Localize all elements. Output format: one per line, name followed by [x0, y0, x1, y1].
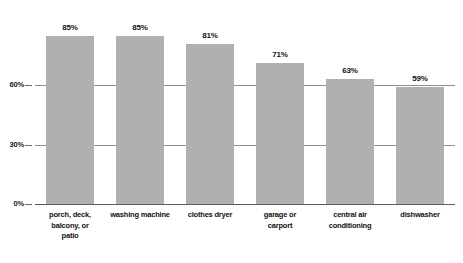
- x-axis-label-line: dishwasher: [380, 210, 460, 221]
- bar: [326, 79, 374, 204]
- bar: [116, 36, 164, 204]
- bar: [256, 63, 304, 204]
- bar-group: 81%: [186, 14, 234, 204]
- x-axis-label-line: patio: [30, 231, 110, 242]
- bar-value-label: 63%: [314, 67, 386, 75]
- x-axis-label: dishwasher: [380, 210, 460, 221]
- y-axis-tick-label-60: 60%: [0, 81, 24, 89]
- bar-group: 63%: [326, 14, 374, 204]
- x-axis-label-line: conditioning: [310, 221, 390, 232]
- bar-value-label: 85%: [34, 24, 106, 32]
- bar-chart: 0% 30% 60% 85%85%81%71%63%59% porch, dec…: [0, 0, 463, 263]
- tick-mark-30: [25, 145, 32, 146]
- bar-group: 71%: [256, 14, 304, 204]
- tick-mark-0: [25, 204, 32, 205]
- x-axis-label-line: porch, deck,: [30, 210, 110, 221]
- bar-value-label: 71%: [244, 51, 316, 59]
- bar-group: 85%: [46, 14, 94, 204]
- x-axis-label-line: clothes dryer: [170, 210, 250, 221]
- x-axis-label-line: carport: [240, 221, 320, 232]
- x-axis-label: porch, deck,balcony, orpatio: [30, 210, 110, 242]
- x-axis-label-line: garage or: [240, 210, 320, 221]
- y-axis: 0% 30% 60%: [0, 14, 24, 204]
- y-axis-tick-label-0: 0%: [0, 200, 24, 208]
- axis-baseline: [35, 204, 455, 205]
- x-axis-label-line: balcony, or: [30, 221, 110, 232]
- x-axis-label: central airconditioning: [310, 210, 390, 231]
- x-axis-label: clothes dryer: [170, 210, 250, 221]
- x-axis-label-line: washing machine: [100, 210, 180, 221]
- bar-value-label: 85%: [104, 24, 176, 32]
- bar: [186, 44, 234, 204]
- bar-group: 85%: [116, 14, 164, 204]
- y-axis-tick-label-30: 30%: [0, 141, 24, 149]
- bar-group: 59%: [396, 14, 444, 204]
- bar-value-label: 59%: [384, 75, 456, 83]
- bar: [46, 36, 94, 204]
- bar: [396, 87, 444, 204]
- tick-mark-60: [25, 85, 32, 86]
- x-axis-category-labels: porch, deck,balcony, orpatiowashing mach…: [35, 210, 455, 260]
- x-axis-label-line: central air: [310, 210, 390, 221]
- bars-layer: 85%85%81%71%63%59%: [35, 14, 455, 204]
- bar-value-label: 81%: [174, 32, 246, 40]
- x-axis-label: garage orcarport: [240, 210, 320, 231]
- x-axis-label: washing machine: [100, 210, 180, 221]
